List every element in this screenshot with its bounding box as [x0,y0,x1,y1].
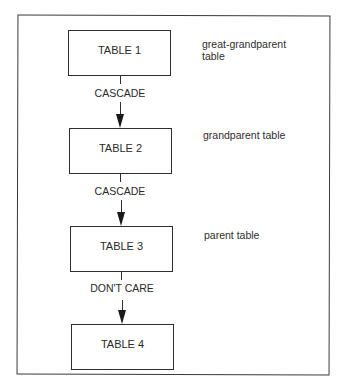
table-3-label: TABLE 3 [71,241,172,252]
connector-2-3-stub [120,174,121,182]
table-2-box: TABLE 2 [69,128,172,174]
relationship-2-3-label: CASCADE [65,186,175,197]
table-2-label: TABLE 2 [70,143,171,154]
relationship-1-2-label: CASCADE [65,88,175,99]
arrow-down-icon [116,114,124,128]
connector-3-4-stub [121,272,122,280]
table-4-box: TABLE 4 [71,324,174,370]
table-2-role-line-1: grandparent table [203,129,313,141]
arrow-down-icon [117,212,125,226]
relationship-3-4-label: DON'T CARE [67,283,177,294]
table-1-box: TABLE 1 [68,30,171,76]
arrow-down-icon [118,310,126,324]
connector-1-2-stub [120,76,121,84]
table-1-role: great-grandparent table [202,38,312,62]
table-3-role: parent table [204,229,314,241]
table-1-label: TABLE 1 [69,45,170,56]
table-4-label: TABLE 4 [72,339,173,350]
table-3-role-line-1: parent table [204,229,314,241]
table-1-role-line-2: table [202,50,312,62]
table-3-box: TABLE 3 [70,226,173,272]
table-1-role-line-1: great-grandparent [202,38,312,50]
table-2-role: grandparent table [203,129,313,141]
